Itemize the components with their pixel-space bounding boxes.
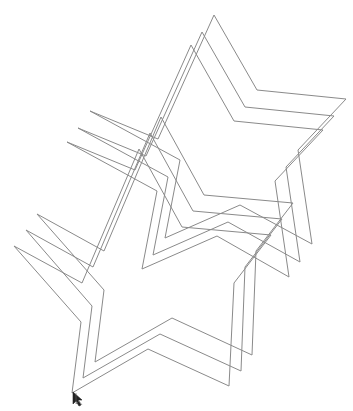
star-shape-upper-3[interactable] xyxy=(67,45,323,277)
star-shape-upper-1[interactable] xyxy=(90,15,346,244)
shape-layer xyxy=(0,0,353,411)
star-shape-upper-2[interactable] xyxy=(78,32,334,262)
star-shape-lower-3[interactable] xyxy=(14,149,271,393)
arrow-cursor-icon xyxy=(72,391,86,407)
drawing-canvas[interactable] xyxy=(0,0,353,411)
star-shape-lower-1[interactable] xyxy=(37,117,293,362)
